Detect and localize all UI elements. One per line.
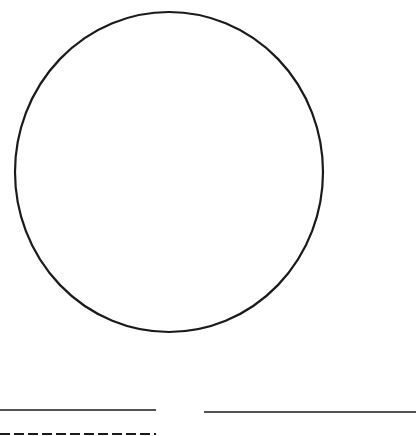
drawing-canvas <box>0 0 416 436</box>
circle-shape <box>15 12 323 332</box>
